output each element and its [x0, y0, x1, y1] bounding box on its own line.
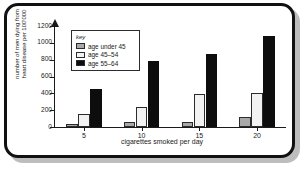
legend-title: key	[76, 34, 136, 40]
x-tick-mark	[142, 127, 143, 131]
legend-swatch-icon	[76, 43, 85, 49]
chart-plot-region: number of men dying from heart disease p…	[7, 6, 292, 155]
legend-swatch-icon	[76, 60, 85, 66]
x-tick-mark	[199, 127, 200, 131]
y-tick-label: 600	[41, 72, 52, 79]
x-tick-label: 10	[127, 132, 157, 139]
legend-entries: age under 45age 45–54age 55–64	[76, 43, 136, 67]
bar	[78, 114, 90, 127]
bar	[182, 122, 194, 127]
x-tick-label: 20	[242, 132, 272, 139]
bar	[263, 36, 275, 127]
y-tick-label: 1200	[37, 22, 52, 29]
bar	[66, 124, 78, 127]
x-axis-line	[54, 127, 286, 128]
y-tick-label: 400	[41, 89, 52, 96]
legend-label: age under 45	[88, 43, 126, 50]
x-tick-mark	[257, 127, 258, 131]
legend-entry: age 45–54	[76, 51, 136, 58]
bar	[239, 117, 251, 127]
bar	[148, 61, 160, 127]
bar	[194, 94, 206, 127]
legend-label: age 55–64	[88, 60, 118, 67]
legend-entry: age 55–64	[76, 60, 136, 67]
bar	[124, 122, 136, 127]
legend-entry: age under 45	[76, 43, 136, 50]
x-tick-mark	[84, 127, 85, 131]
bar	[90, 89, 102, 127]
y-tick-label: 1000	[37, 38, 52, 45]
bar	[206, 54, 218, 127]
x-tick-label: 15	[184, 132, 214, 139]
bar	[136, 107, 148, 127]
y-axis-title: number of men dying from heart disease p…	[13, 3, 37, 92]
bar	[251, 93, 263, 128]
y-tick-label: 0	[48, 123, 52, 130]
y-tick-label: 800	[41, 55, 52, 62]
legend-label: age 45–54	[88, 51, 118, 58]
y-tick-label: 200	[41, 106, 52, 113]
chart-frame: number of men dying from heart disease p…	[4, 3, 295, 158]
x-tick-label: 5	[69, 132, 99, 139]
legend-swatch-icon	[76, 52, 85, 58]
chart-legend: key age under 45age 45–54age 55–64	[71, 30, 140, 71]
x-axis-title: cigarettes smoked per day	[47, 138, 277, 145]
